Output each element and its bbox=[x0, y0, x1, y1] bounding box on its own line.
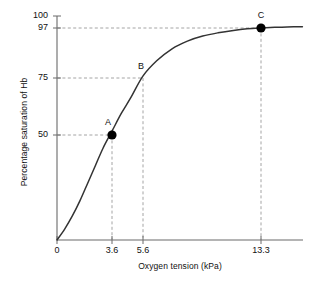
y-tick-label-100: 100 bbox=[14, 10, 48, 20]
y-axis-title: Percentage saturation of Hb bbox=[19, 47, 29, 217]
x-axis-title: Oxygen tension (kPa) bbox=[57, 261, 303, 271]
oxygen-dissociation-chart: 100 97 75 50 0 3.6 5.6 13.3 A B C Percen… bbox=[0, 0, 320, 284]
annotation-label-a: A bbox=[100, 117, 116, 127]
x-tick-label-3-6: 3.6 bbox=[95, 245, 129, 255]
y-tick-label-97: 97 bbox=[14, 22, 48, 32]
data-point-marker-c bbox=[256, 23, 265, 32]
annotation-label-b: B bbox=[133, 61, 149, 71]
x-tick-label-5-6: 5.6 bbox=[126, 245, 160, 255]
x-tick-label-13-3: 13.3 bbox=[244, 245, 278, 255]
chart-plot-area bbox=[0, 0, 320, 284]
data-point-marker-a bbox=[107, 130, 116, 139]
annotation-label-c: C bbox=[253, 10, 269, 20]
x-tick-label-0: 0 bbox=[40, 245, 74, 255]
dissociation-curve bbox=[57, 27, 302, 240]
